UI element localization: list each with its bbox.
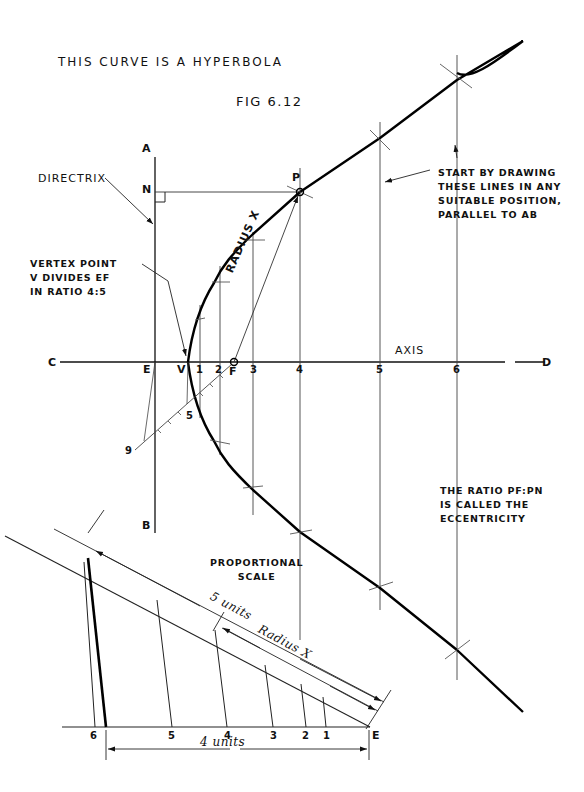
figure-title: THIS CURVE IS A HYPERBOLA <box>58 56 283 70</box>
four-units-label: 4 units <box>200 736 245 750</box>
scale-tick-5: 5 <box>168 730 175 742</box>
axis-tick-5: 5 <box>376 364 383 376</box>
axis-tick-2: 2 <box>215 364 222 376</box>
label-f: F <box>229 366 237 379</box>
proportional-scale-label: PROPORTIONAL SCALE <box>210 556 303 584</box>
axis-tick-6: 6 <box>453 364 460 376</box>
ratio-join-5 <box>187 362 188 404</box>
vertex-leader <box>142 264 186 356</box>
label-n: N <box>142 184 151 197</box>
scale-tick-2: 2 <box>302 730 309 742</box>
directrix-label: DIRECTRIX <box>38 173 106 186</box>
ratio-construction-line <box>135 364 232 450</box>
five-units-arrow-left <box>96 551 200 606</box>
label-p: P <box>292 172 300 185</box>
right-angle-mark <box>155 192 165 202</box>
label-c: C <box>48 357 56 370</box>
scale-tick-e: E <box>372 730 380 743</box>
label-b: B <box>142 520 150 533</box>
figure-caption: FIG 6.12 <box>236 95 302 110</box>
axis-label: AXIS <box>395 345 424 358</box>
mark-5: 5 <box>186 410 193 422</box>
axis-tick-4: 4 <box>296 364 303 376</box>
radius-arrow-left <box>223 628 260 648</box>
radius-arrow-right <box>330 686 375 710</box>
start-note-leader-a <box>385 170 430 182</box>
label-a: A <box>142 143 151 156</box>
proportional-scale <box>5 510 391 760</box>
start-note: START BY DRAWING THESE LINES IN ANY SUIT… <box>438 166 562 222</box>
scale-tick-6: 6 <box>90 730 97 742</box>
hyperbola-diagram <box>0 0 584 792</box>
mark-9: 9 <box>125 445 132 457</box>
label-v: V <box>177 364 186 377</box>
label-e: E <box>143 364 151 377</box>
scale-tick-3: 3 <box>270 730 277 742</box>
label-d: D <box>542 357 551 370</box>
axis-tick-3: 3 <box>250 364 257 376</box>
scale-tick-1: 1 <box>323 730 330 742</box>
five-units-arrow-right <box>300 659 381 701</box>
eccentricity-note: THE RATIO PF:PN IS CALLED THE ECCENTRICI… <box>440 484 543 526</box>
vertex-note: VERTEX POINT V DIVIDES EF IN RATIO 4:5 <box>30 257 117 299</box>
axis-tick-1: 1 <box>196 364 203 376</box>
construction-verticals <box>200 55 457 680</box>
